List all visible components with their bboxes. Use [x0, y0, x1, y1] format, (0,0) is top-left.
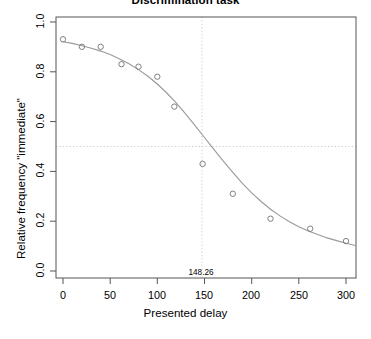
data-point — [155, 74, 160, 79]
data-point — [98, 44, 103, 49]
data-points — [60, 37, 348, 244]
y-axis-ticks — [50, 22, 56, 271]
data-point — [119, 61, 124, 66]
plot-area — [0, 0, 371, 339]
data-point — [268, 216, 273, 221]
data-point — [308, 226, 313, 231]
chart-figure: Discrimination task Relative frequency "… — [0, 0, 371, 339]
reference-lines — [56, 17, 356, 278]
data-point — [230, 191, 235, 196]
data-point — [172, 104, 177, 109]
data-point — [200, 161, 205, 166]
data-point — [60, 37, 65, 42]
data-point — [136, 64, 141, 69]
fitted-curve — [63, 42, 355, 246]
axis-frame — [56, 17, 356, 278]
x-axis-ticks — [63, 278, 346, 284]
data-point — [79, 44, 84, 49]
